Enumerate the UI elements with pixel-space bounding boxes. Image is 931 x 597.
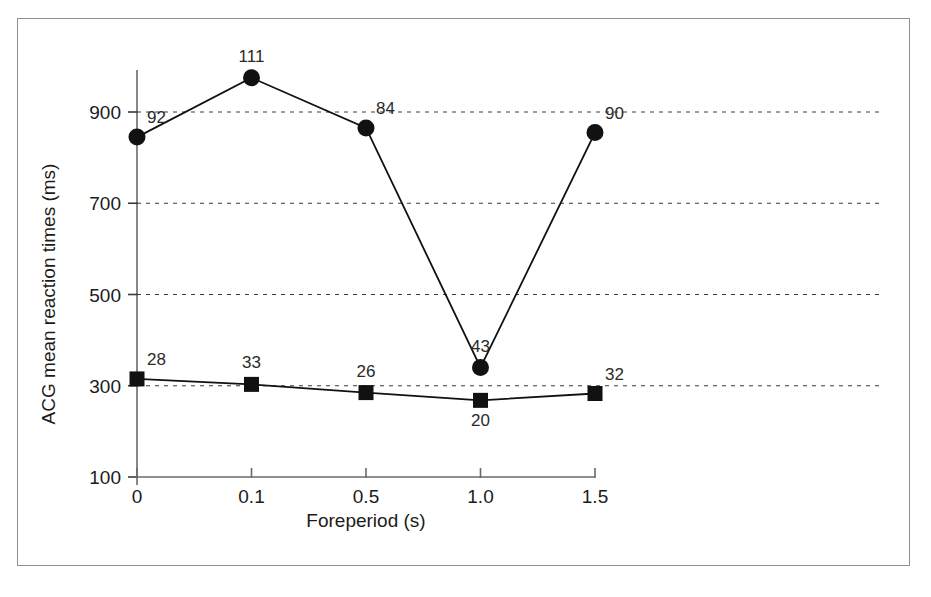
- y-axis-tick-labels-group: 100300500700900: [89, 102, 121, 488]
- x-axis-tick-labels-group: 00.10.51.01.5: [132, 486, 609, 507]
- figure-root: 100300500700900 00.10.51.01.5 ACG mean r…: [0, 0, 931, 597]
- y-tick-label: 500: [89, 285, 121, 306]
- data-point-label: 43: [471, 337, 490, 356]
- data-point-label: 32: [605, 365, 624, 384]
- data-point-circle: [472, 359, 489, 376]
- data-point-circle: [587, 124, 604, 141]
- data-point-square: [473, 393, 488, 408]
- data-point-label: 90: [605, 104, 624, 123]
- data-point-label: 84: [376, 99, 395, 118]
- x-tick-label: 1.0: [467, 486, 493, 507]
- x-tick-label: 0.1: [238, 486, 264, 507]
- x-axis-title: Foreperiod (s): [306, 510, 425, 531]
- data-point-label: 92: [147, 108, 166, 127]
- data-point-circle: [129, 129, 146, 146]
- data-point-label: 26: [357, 362, 376, 381]
- series-point-labels-group: 921118443902833262032: [147, 47, 624, 431]
- data-point-square: [130, 371, 145, 386]
- data-point-circle: [243, 69, 260, 86]
- data-point-label: 20: [471, 411, 490, 430]
- y-tick-label: 300: [89, 376, 121, 397]
- y-axis-title: ACG mean reaction times (ms): [38, 164, 59, 425]
- y-tick-label: 100: [89, 467, 121, 488]
- x-tick-label: 0: [132, 486, 143, 507]
- data-point-circle: [358, 119, 375, 136]
- data-point-label: 28: [147, 350, 166, 369]
- data-point-label: 111: [239, 47, 265, 66]
- data-point-square: [588, 386, 603, 401]
- y-tick-label: 700: [89, 193, 121, 214]
- line-chart: 100300500700900 00.10.51.01.5 ACG mean r…: [0, 0, 931, 597]
- series-markers-group: [129, 69, 604, 408]
- x-tick-label: 0.5: [353, 486, 379, 507]
- data-point-label: 33: [242, 353, 261, 372]
- data-point-square: [244, 377, 259, 392]
- y-tick-label: 900: [89, 102, 121, 123]
- data-point-square: [359, 385, 374, 400]
- x-tick-label: 1.5: [582, 486, 608, 507]
- gridlines-group: [137, 112, 880, 386]
